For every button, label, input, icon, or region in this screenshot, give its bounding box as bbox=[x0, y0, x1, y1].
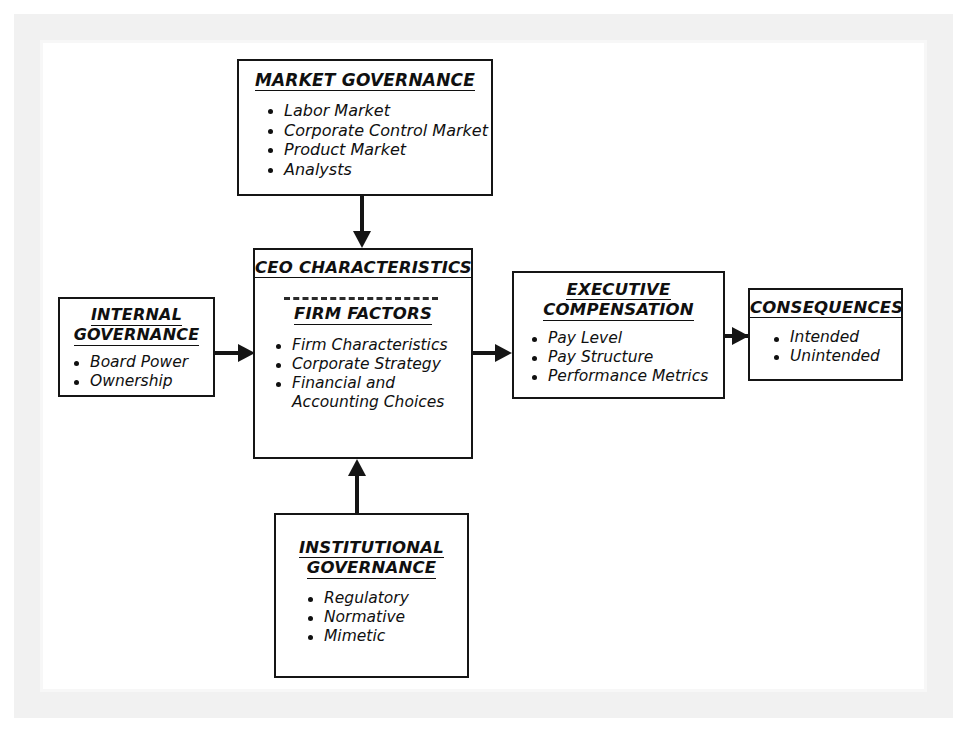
connector-ceo-to-compensation-arrowhead bbox=[495, 344, 512, 362]
list-item: Corporate Strategy bbox=[272, 355, 471, 374]
list-item: Regulatory bbox=[304, 589, 467, 608]
ceo-firm-dashed-separator bbox=[284, 297, 438, 300]
box-consequences-list: Intended Unintended bbox=[770, 328, 901, 366]
list-item: Corporate Control Market bbox=[264, 121, 491, 141]
list-item: Product Market bbox=[264, 140, 491, 160]
box-ceo-characteristics-firm-factors[interactable]: CEO CHARACTERISTICS FIRM FACTORS Firm Ch… bbox=[253, 248, 473, 459]
list-item: Board Power bbox=[70, 353, 213, 372]
box-internal-governance-list: Board Power Ownership bbox=[70, 353, 213, 391]
list-item: Firm Characteristics bbox=[272, 336, 471, 355]
box-institutional-governance-title: INSTITUTIONAL GOVERNANCE bbox=[276, 538, 467, 579]
list-item: Intended bbox=[770, 328, 901, 347]
list-item: Performance Metrics bbox=[528, 367, 723, 386]
box-consequences[interactable]: CONSEQUENCES Intended Unintended bbox=[748, 288, 903, 381]
box-ceo-characteristics-title: CEO CHARACTERISTICS bbox=[255, 258, 471, 278]
list-item: Financial and Accounting Choices bbox=[272, 374, 471, 412]
box-institutional-governance[interactable]: INSTITUTIONAL GOVERNANCE Regulatory Norm… bbox=[274, 513, 469, 678]
connector-market-to-ceo-arrowhead bbox=[353, 231, 371, 248]
box-market-governance-title: MARKET GOVERNANCE bbox=[239, 70, 491, 91]
list-item: Pay Structure bbox=[528, 348, 723, 367]
box-firm-factors-title: FIRM FACTORS bbox=[255, 304, 471, 324]
box-institutional-governance-list: Regulatory Normative Mimetic bbox=[304, 589, 467, 646]
diagram-canvas: MARKET GOVERNANCE Labor Market Corporate… bbox=[0, 0, 967, 732]
list-item: Normative bbox=[304, 608, 467, 627]
list-item: Analysts bbox=[264, 160, 491, 180]
connector-market-to-ceo-line bbox=[360, 196, 364, 234]
connector-compensation-to-consequences-arrowhead bbox=[732, 327, 749, 345]
list-item: Ownership bbox=[70, 372, 213, 391]
box-firm-factors-list: Firm Characteristics Corporate Strategy … bbox=[272, 336, 471, 412]
box-internal-governance-title: INTERNAL GOVERNANCE bbox=[60, 306, 213, 346]
list-item: Mimetic bbox=[304, 627, 467, 646]
connector-institutional-to-ceo-arrowhead bbox=[348, 459, 366, 476]
list-item: Labor Market bbox=[264, 101, 491, 121]
connector-institutional-to-ceo-line bbox=[355, 474, 359, 513]
box-executive-compensation-title: EXECUTIVE COMPENSATION bbox=[514, 280, 723, 321]
list-item: Unintended bbox=[770, 347, 901, 366]
box-executive-compensation[interactable]: EXECUTIVE COMPENSATION Pay Level Pay Str… bbox=[512, 271, 725, 399]
box-market-governance[interactable]: MARKET GOVERNANCE Labor Market Corporate… bbox=[237, 59, 493, 196]
box-executive-compensation-list: Pay Level Pay Structure Performance Metr… bbox=[528, 329, 723, 386]
box-market-governance-list: Labor Market Corporate Control Market Pr… bbox=[264, 101, 491, 179]
list-item: Pay Level bbox=[528, 329, 723, 348]
box-consequences-title: CONSEQUENCES bbox=[750, 298, 901, 318]
box-internal-governance[interactable]: INTERNAL GOVERNANCE Board Power Ownershi… bbox=[58, 297, 215, 397]
